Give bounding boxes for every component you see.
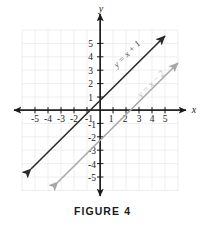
x-tick-label: 3 — [137, 114, 142, 124]
y-tick-label: -5 — [88, 173, 96, 183]
x-tick-label: -3 — [57, 114, 65, 124]
y-tick-label: -2 — [88, 133, 96, 143]
figure-caption: FIGURE 4 — [0, 205, 205, 217]
y-tick-label: -1 — [88, 120, 96, 130]
y-tick-label: 2 — [88, 79, 93, 89]
y-tick-label: 3 — [88, 66, 93, 76]
line-series-1: y = x + 1 — [31, 36, 165, 169]
y-tick-label: 1 — [88, 93, 93, 103]
y-tick-label: -4 — [88, 160, 96, 170]
y-tick-label: 4 — [88, 52, 93, 62]
coordinate-plane: -5 -4 -3 -2 -1 1 2 3 4 5 5 4 3 2 1 -1 -2… — [0, 0, 205, 200]
line-y-equals-x-plus-1 — [31, 36, 165, 169]
x-tick-labels: -5 -4 -3 -2 -1 1 2 3 4 5 — [31, 114, 168, 124]
y-axis-label: y — [98, 3, 104, 14]
x-axis-label: x — [191, 104, 197, 115]
x-tick-label: -5 — [31, 114, 39, 124]
x-tick-label: 4 — [150, 114, 155, 124]
line-label-2: y = x − 2 — [135, 68, 167, 100]
graph-svg: -5 -4 -3 -2 -1 1 2 3 4 5 5 4 3 2 1 -1 -2… — [0, 0, 205, 200]
x-tick-label: 5 — [163, 114, 168, 124]
x-tick-label: -4 — [44, 114, 52, 124]
y-tick-label: 5 — [88, 39, 93, 49]
x-tick-label: 1 — [109, 114, 114, 124]
figure-container: -5 -4 -3 -2 -1 1 2 3 4 5 5 4 3 2 1 -1 -2… — [0, 0, 205, 226]
